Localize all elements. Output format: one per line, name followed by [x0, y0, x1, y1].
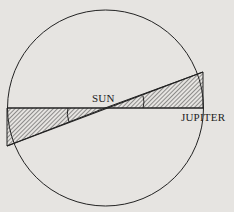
sun-label: SUN — [92, 92, 115, 104]
orbit-figure — [0, 0, 234, 212]
jupiter-label: JUPITER — [181, 111, 225, 123]
orbit-diagram: SUN JUPITER — [0, 0, 234, 212]
